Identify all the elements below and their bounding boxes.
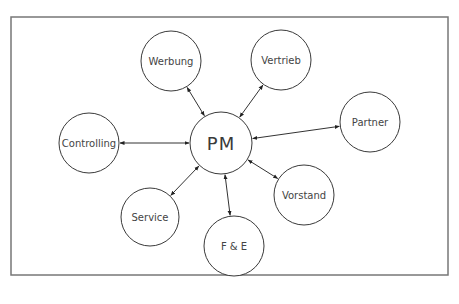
edge-pm-vorstand	[248, 160, 278, 179]
node-werbung: Werbung	[141, 31, 201, 91]
node-label: Service	[132, 212, 169, 223]
node-service: Service	[121, 188, 179, 246]
edge-pm-service	[171, 166, 199, 195]
center-node: PM	[190, 112, 252, 174]
edge-pm-vertrieb	[240, 85, 263, 117]
node-label: Partner	[352, 117, 389, 128]
node-vertrieb: Vertrieb	[251, 30, 311, 90]
node-label: Vorstand	[282, 190, 326, 201]
node-label: Controlling	[62, 138, 116, 149]
node-label: Vertrieb	[261, 55, 301, 66]
diagram-canvas: WerbungVertriebPartnerControllingVorstan…	[0, 0, 459, 304]
edge-pm-partner	[253, 126, 340, 138]
node-partner: Partner	[340, 92, 400, 152]
edge-pm-fe	[225, 175, 230, 215]
node-label: F & E	[221, 241, 247, 252]
edge-pm-werbung	[187, 87, 204, 115]
node-label: Werbung	[149, 56, 194, 67]
center-node-label: PM	[207, 133, 235, 154]
node-vorstand: Vorstand	[274, 165, 334, 225]
node-controlling: Controlling	[59, 113, 119, 173]
node-fe: F & E	[204, 216, 264, 276]
